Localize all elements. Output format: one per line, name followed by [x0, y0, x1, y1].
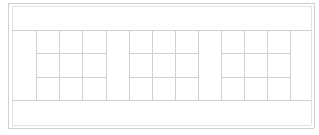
- inner-frame-left: [12, 6, 13, 125]
- column-line-3: [82, 30, 83, 100]
- grid-bottom-line: [12, 100, 311, 101]
- column-line-6: [152, 30, 153, 100]
- outer-frame-left: [8, 3, 9, 128]
- column-line-11: [267, 30, 268, 100]
- column-line-2: [59, 30, 60, 100]
- column-line-12: [290, 30, 291, 100]
- outer-frame-right: [314, 3, 315, 128]
- column-line-9: [221, 30, 222, 100]
- column-line-8: [198, 30, 199, 100]
- outer-frame-bottom: [8, 128, 314, 129]
- column-line-5: [129, 30, 130, 100]
- inner-frame-right: [311, 6, 312, 125]
- inner-frame-bottom: [12, 125, 311, 126]
- column-line-7: [175, 30, 176, 100]
- group-2-row-divider-2: [129, 77, 198, 78]
- group-1-row-divider-2: [36, 77, 106, 78]
- column-line-10: [244, 30, 245, 100]
- outer-frame-top: [8, 3, 314, 4]
- group-3-row-divider-1: [221, 53, 290, 54]
- group-1-row-divider-1: [36, 53, 106, 54]
- column-line-1: [36, 30, 37, 100]
- group-3-row-divider-2: [221, 77, 290, 78]
- column-line-4: [106, 30, 107, 100]
- group-2-row-divider-1: [129, 53, 198, 54]
- inner-frame-top: [12, 6, 311, 7]
